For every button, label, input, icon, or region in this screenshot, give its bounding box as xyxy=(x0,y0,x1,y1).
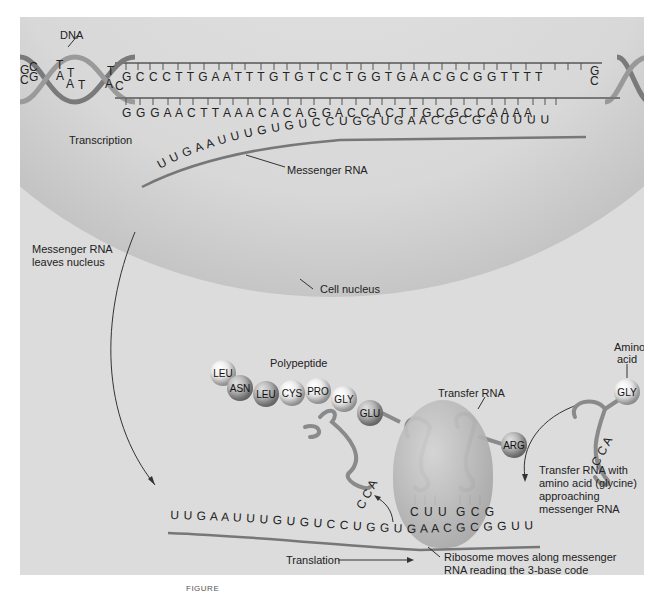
label-ribosome-2: RNA reading the 3-base code xyxy=(444,564,588,575)
label-ribosome-1: Ribosome moves along messenger xyxy=(444,551,616,564)
label-trna-approach-2: amino acid (glycine) xyxy=(539,477,637,490)
anticodon-1: C U U xyxy=(410,505,448,519)
label-transfer-rna: Transfer RNA xyxy=(438,387,505,400)
label-dna: DNA xyxy=(60,29,83,42)
figure-panel: G C C C T T G A A T T T G T G T C C T G … xyxy=(20,17,644,575)
label-amino-2: acid xyxy=(617,353,637,366)
amino-acid-gly: GLY xyxy=(331,386,357,412)
trna-cca-left: C C A xyxy=(353,477,380,511)
label-trna-approach-3: approaching xyxy=(539,490,600,503)
amino-acid-leu-2: LEU xyxy=(253,381,279,407)
amino-acid-glu: GLU xyxy=(357,400,383,426)
label-translation: Translation xyxy=(286,554,340,567)
label-mrna-leaves-1: Messenger RNA xyxy=(32,243,113,256)
label-trna-approach-1: Transfer RNA with xyxy=(539,464,628,477)
label-messenger-rna: Messenger RNA xyxy=(287,164,368,177)
amino-acid-asn: ASN xyxy=(227,375,253,401)
cytoplasm-mrna-bases: U U G A A U U U G U G U C C U G G U G A … xyxy=(20,17,538,536)
label-mrna-leaves-2: leaves nucleus xyxy=(32,256,105,269)
label-trna-approach-4: messenger RNA xyxy=(539,503,620,516)
label-transcription: Transcription xyxy=(69,134,132,147)
amino-acid-arg: ARG xyxy=(501,432,527,458)
figure-caption: FIGURE xyxy=(186,584,219,591)
amino-acid-gly-incoming: GLY xyxy=(614,379,640,405)
amino-acid-pro: PRO xyxy=(305,378,331,404)
anticodon-2: G C G xyxy=(456,505,495,519)
amino-acid-cys: CYS xyxy=(279,380,305,406)
label-polypeptide: Polypeptide xyxy=(270,357,328,370)
label-cell-nucleus: Cell nucleus xyxy=(320,283,380,296)
